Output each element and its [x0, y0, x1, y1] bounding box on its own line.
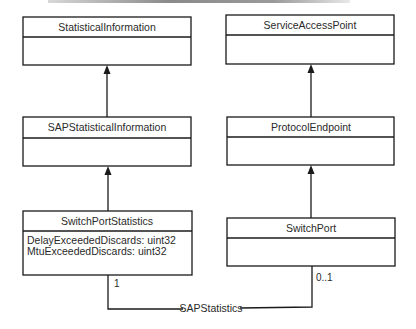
class-switch-port: SwitchPort [227, 218, 395, 266]
class-statistical-information: StatisticalInformation [23, 17, 191, 65]
arrowhead-icon [308, 165, 315, 174]
arrowhead-icon [308, 64, 315, 73]
inheritance-arrow-protocolendpoint-to-sap [308, 64, 315, 117]
class-name: ProtocolEndpoint [271, 121, 351, 133]
multiplicity-switch-port: 0..1 [316, 272, 333, 283]
uml-diagram: StatisticalInformation ServiceAccessPoin… [0, 0, 416, 329]
class-switch-port-statistics: SwitchPortStatistics DelayExceededDiscar… [23, 211, 192, 275]
arrowhead-icon [104, 65, 111, 74]
class-service-access-point: ServiceAccessPoint [226, 15, 394, 64]
class-name: SwitchPort [286, 222, 336, 234]
class-name: ServiceAccessPoint [264, 19, 357, 31]
class-name: StatisticalInformation [58, 21, 156, 33]
class-protocol-endpoint: ProtocolEndpoint [227, 117, 394, 165]
class-name: SwitchPortStatistics [61, 215, 153, 227]
inheritance-arrow-switchport-to-protocolendpoint [308, 165, 315, 218]
inheritance-arrow-sapstat-to-statinfo [104, 65, 111, 117]
arrowhead-icon [105, 166, 112, 175]
class-name: SAPStatisticalInformation [48, 121, 167, 133]
attribute-mtu-exceeded-discards: MtuExceededDiscards: uint32 [27, 245, 167, 257]
inheritance-arrow-switchportstats-to-sapstat [105, 166, 112, 211]
association-label: SAPStatistics [179, 302, 242, 314]
class-sap-statistical-information: SAPStatisticalInformation [23, 117, 191, 166]
multiplicity-switch-port-statistics: 1 [114, 278, 120, 289]
